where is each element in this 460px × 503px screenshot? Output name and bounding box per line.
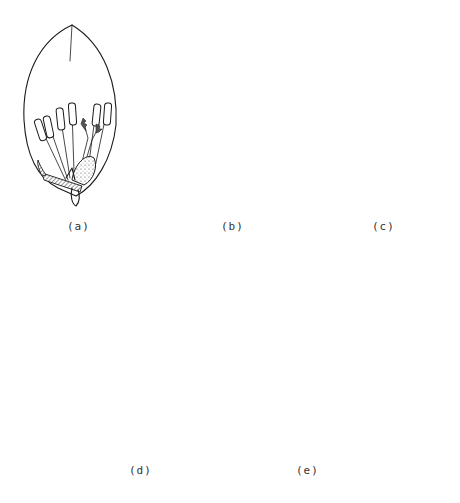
- panel-a-drawing: [24, 25, 116, 206]
- figure-canvas: [0, 0, 460, 503]
- panel-a-label: (a): [67, 220, 90, 233]
- panel-d-label: (d): [129, 464, 152, 477]
- panel-b-label: (b): [221, 220, 244, 233]
- panel-c-label: (c): [372, 220, 395, 233]
- panel-e-label: (e): [296, 464, 319, 477]
